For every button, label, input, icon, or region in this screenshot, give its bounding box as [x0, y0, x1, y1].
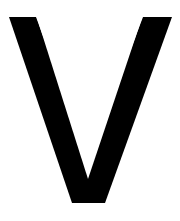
letter-v-glyph [0, 0, 180, 221]
glyph-canvas: V [0, 0, 180, 221]
